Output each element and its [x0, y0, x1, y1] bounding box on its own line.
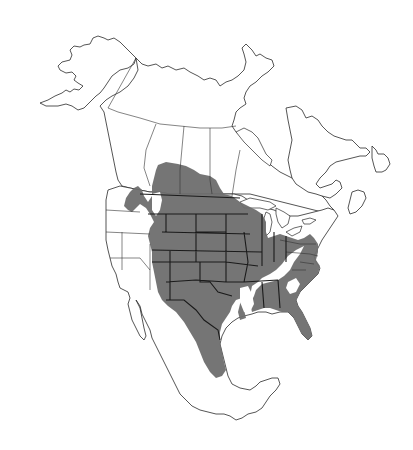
- land-nova-scotia: [348, 190, 366, 214]
- range-map: species range map North America: [0, 0, 413, 450]
- map-svg: [0, 0, 413, 450]
- land-quebec-labrador: [286, 106, 370, 198]
- land-newfoundland: [372, 146, 390, 172]
